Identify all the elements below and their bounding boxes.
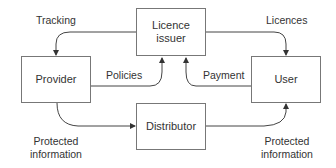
user-label: User: [274, 73, 297, 86]
node-licence-issuer: Licence issuer: [136, 8, 206, 56]
licence-issuer-line1: Licence: [152, 19, 190, 32]
licence-issuer-line2: issuer: [156, 32, 185, 45]
edge-label-protected-user: Protected information: [261, 135, 313, 160]
edge-label-policies: Policies: [106, 69, 142, 82]
edge-label-licences: Licences: [266, 14, 307, 27]
licences-arrow: [206, 32, 286, 55]
distributor-label: Distributor: [146, 120, 196, 133]
node-user: User: [251, 56, 321, 103]
node-distributor: Distributor: [136, 103, 206, 150]
protected-user-line2: information: [261, 148, 313, 161]
edge-label-tracking: Tracking: [36, 14, 76, 27]
node-provider: Provider: [21, 56, 91, 103]
edge-label-payment: Payment: [203, 69, 244, 82]
tracking-arrow: [56, 32, 136, 55]
provider-label: Provider: [36, 73, 77, 86]
protected-provider-line2: information: [30, 148, 82, 161]
protected-user-line1: Protected: [261, 135, 313, 148]
distributor-user-arrow: [206, 104, 286, 126]
edge-label-protected-provider: Protected information: [30, 135, 82, 160]
provider-distributor-arrow: [57, 103, 135, 126]
protected-provider-line1: Protected: [30, 135, 82, 148]
